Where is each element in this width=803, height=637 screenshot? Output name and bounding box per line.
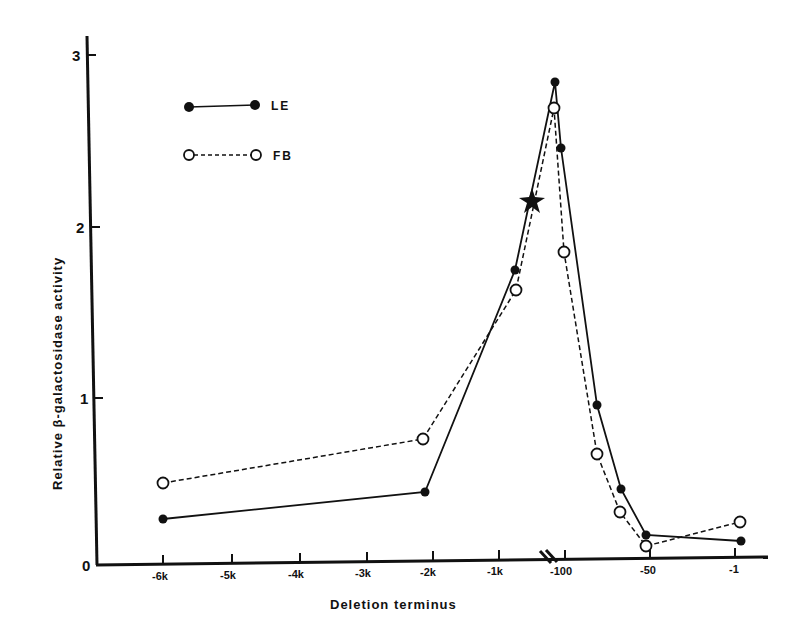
- data-point: [737, 537, 746, 546]
- data-point: [551, 78, 560, 87]
- x-tick-label: -3k: [355, 567, 372, 579]
- data-point: [615, 507, 626, 518]
- y-axis-line: [87, 36, 97, 565]
- data-point: [418, 434, 429, 445]
- data-point: [593, 401, 602, 410]
- legend-fb-marker-icon: [251, 150, 261, 160]
- x-tick-label: -1: [729, 563, 739, 575]
- data-point: [557, 144, 566, 153]
- data-point: [511, 285, 522, 296]
- x-tick-label: -50: [640, 564, 656, 576]
- legend-le-line: [189, 105, 255, 107]
- y-tick-label: 2: [76, 219, 84, 236]
- star-marker-icon: [519, 188, 545, 213]
- legend-fb-marker-icon: [184, 150, 194, 160]
- series-fb-markers: [158, 103, 746, 552]
- series-le-line: [163, 82, 741, 541]
- series-fb-line: [163, 108, 740, 546]
- legend-fb-label: FB: [273, 149, 293, 163]
- legend: LE FB: [184, 99, 293, 163]
- x-ticks: -6k -5k -4k -3k -2k -1k -100 -50 -1: [152, 548, 739, 582]
- data-point: [511, 266, 520, 275]
- x-axis-title: Deletion terminus: [330, 597, 457, 612]
- chart-canvas: 3 2 1 0 -6k -5k -4k -3k -2k -1k -100 -50…: [0, 0, 803, 637]
- data-point: [421, 488, 430, 497]
- data-point: [592, 449, 603, 460]
- data-point: [641, 541, 652, 552]
- data-point: [559, 247, 570, 258]
- x-tick-label: -100: [550, 565, 572, 577]
- y-tick-label: 3: [72, 47, 80, 64]
- x-tick-label: -4k: [288, 568, 305, 580]
- data-point: [158, 478, 169, 489]
- y-tick-label: 1: [80, 390, 88, 407]
- data-point: [735, 517, 746, 528]
- x-tick-label: -5k: [220, 569, 237, 581]
- y-tick-label: 0: [82, 557, 90, 574]
- data-point: [159, 515, 168, 524]
- legend-le-marker-icon: [184, 102, 194, 112]
- data-point: [642, 531, 651, 540]
- y-axis-title: Relative β-galactosidase activity: [50, 257, 65, 490]
- x-tick-label: -1k: [487, 565, 504, 577]
- data-point: [617, 485, 626, 494]
- x-tick-label: -2k: [420, 566, 437, 578]
- data-point: [549, 103, 560, 114]
- x-tick-label: -6k: [152, 570, 169, 582]
- legend-le-label: LE: [271, 99, 290, 113]
- legend-le-marker-icon: [250, 100, 260, 110]
- series-le-markers: [159, 78, 746, 546]
